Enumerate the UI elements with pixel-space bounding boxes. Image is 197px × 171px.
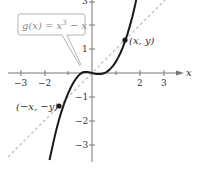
y-tick-label: −1 (75, 92, 88, 102)
x-tick-label: 2 (137, 78, 143, 88)
x-tick-label: −3 (14, 78, 28, 88)
x-tick-label: 3 (161, 78, 167, 88)
function-callout: g(x) = x3 − x (18, 14, 87, 66)
point-neg-x-neg-y-label: (−x, −y) (16, 101, 58, 112)
x-tick-label: −2 (38, 78, 51, 88)
point-x-y-label: (x, y) (129, 35, 155, 46)
x-axis-arrow-icon (176, 71, 184, 76)
x-axis-label: x (186, 67, 192, 78)
y-tick-label: −2 (75, 116, 88, 126)
y-tick-label: −3 (75, 140, 89, 150)
function-label: g(x) = x3 − x (22, 19, 87, 31)
y-tick-label: 1 (82, 44, 88, 54)
chart: x −3 −2 2 3 3 1 −1 −2 −3 g(x) = x3 − x (0, 0, 197, 171)
y-tick-label: 3 (82, 0, 88, 6)
point-x-y (122, 37, 127, 42)
